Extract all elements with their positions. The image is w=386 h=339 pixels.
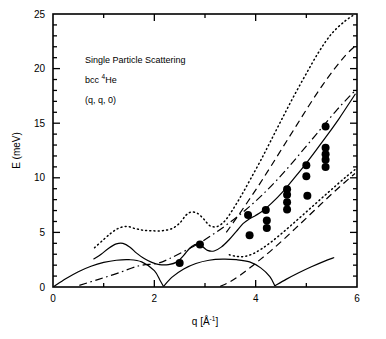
figure-root: 0510152025 0246 E (meV) q [Å-1] Single P…: [0, 0, 386, 339]
y-tick-label-0: 0: [39, 282, 45, 293]
y-tick-label-5: 25: [34, 9, 46, 20]
y-tick-label-1: 5: [39, 227, 45, 238]
x-tick-label-0: 0: [50, 293, 56, 304]
data-point: [283, 191, 291, 199]
scatter-plot: 0510152025 0246 E (meV) q [Å-1] Single P…: [0, 0, 386, 339]
annotation-line-2-pre: bcc: [85, 75, 102, 85]
data-point: [322, 163, 330, 171]
x-tick-label-3: 6: [354, 293, 360, 304]
y-tick-label-2: 10: [34, 172, 46, 183]
data-point: [283, 205, 291, 213]
x-axis-label: q [Å-1]: [192, 315, 219, 327]
data-point: [263, 216, 271, 224]
y-tick-label-3: 15: [34, 118, 46, 129]
y-axis-label: E (meV): [11, 132, 22, 169]
y-tick-label-4: 20: [34, 63, 46, 74]
x-tick-label-1: 2: [152, 293, 158, 304]
data-point: [302, 172, 310, 180]
x-tick-label-2: 4: [253, 293, 259, 304]
annotation-line-2-post: He: [105, 75, 117, 85]
data-point: [322, 156, 330, 164]
annotation-line-1: Single Particle Scattering: [85, 55, 186, 65]
x-axis-label-pre: q [Å: [192, 315, 210, 327]
data-point: [263, 224, 271, 232]
annotation-line-3: (q, q, 0): [85, 95, 116, 105]
data-point: [283, 198, 291, 206]
data-point: [303, 192, 311, 200]
annotation-line-2: bcc 4He: [85, 73, 117, 85]
x-axis-label-post: ]: [215, 316, 218, 327]
data-point: [246, 231, 254, 239]
